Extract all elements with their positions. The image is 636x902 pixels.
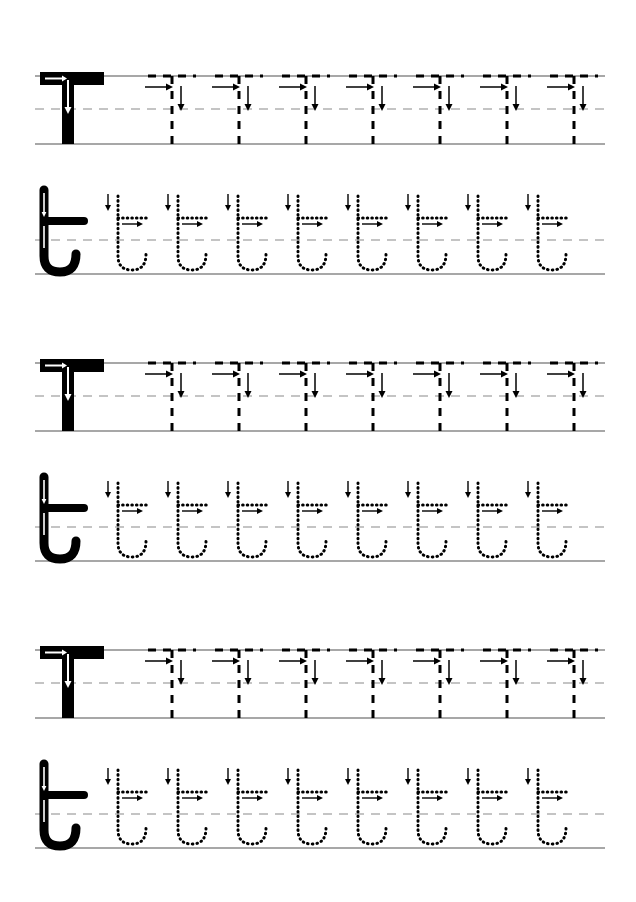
- uppercase-T-row-2: [0, 347, 636, 437]
- uppercase-T-row-1: [0, 60, 636, 150]
- tracing-letter-t: [345, 768, 390, 844]
- tracing-letter-T: [145, 76, 196, 144]
- tracing-letter-T: [279, 650, 330, 718]
- tracing-letter-t: [165, 194, 210, 270]
- tracing-letter-t: [105, 194, 150, 270]
- model-letter-lowercase-t: [42, 764, 84, 846]
- tracing-letter-T: [480, 76, 531, 144]
- tracing-letters-lowercase[interactable]: [105, 768, 570, 844]
- tracing-letter-t: [525, 768, 570, 844]
- tracing-letter-t: [405, 481, 450, 557]
- tracing-letter-T: [145, 363, 196, 431]
- tracing-letter-T: [480, 650, 531, 718]
- tracing-letter-t: [225, 481, 270, 557]
- tracing-letters-lowercase[interactable]: [105, 481, 570, 557]
- tracing-letter-t: [285, 194, 330, 270]
- model-letter-uppercase-T: [40, 359, 104, 431]
- tracing-letters-lowercase[interactable]: [105, 194, 570, 270]
- tracing-letter-t: [525, 481, 570, 557]
- tracing-letter-t: [405, 194, 450, 270]
- tracing-letter-t: [225, 194, 270, 270]
- tracing-letter-t: [105, 768, 150, 844]
- model-letter-lowercase-t: [42, 190, 84, 272]
- tracing-letter-t: [165, 481, 210, 557]
- tracing-letter-T: [547, 650, 598, 718]
- tracing-letter-T: [413, 76, 464, 144]
- tracing-letter-t: [525, 194, 570, 270]
- tracing-letter-t: [165, 768, 210, 844]
- tracing-letter-T: [346, 76, 397, 144]
- tracing-letters-uppercase[interactable]: [145, 76, 598, 144]
- tracing-letter-t: [405, 768, 450, 844]
- tracing-letter-T: [346, 363, 397, 431]
- lowercase-t-row-2: [0, 465, 636, 565]
- uppercase-T-row-3: [0, 634, 636, 724]
- tracing-letter-t: [225, 768, 270, 844]
- tracing-letter-T: [547, 76, 598, 144]
- model-letter-lowercase-t: [42, 477, 84, 559]
- tracing-letter-T: [212, 363, 263, 431]
- tracing-letter-T: [212, 76, 263, 144]
- tracing-letter-t: [345, 481, 390, 557]
- tracing-letter-T: [413, 363, 464, 431]
- tracing-letter-T: [413, 650, 464, 718]
- tracing-letter-T: [547, 363, 598, 431]
- tracing-letter-T: [480, 363, 531, 431]
- model-letter-uppercase-T: [40, 646, 104, 718]
- tracing-letter-t: [285, 768, 330, 844]
- lowercase-t-row-3: [0, 752, 636, 852]
- tracing-letter-T: [212, 650, 263, 718]
- model-letter-uppercase-T: [40, 72, 104, 144]
- tracing-letter-t: [465, 481, 510, 557]
- tracing-letter-T: [279, 76, 330, 144]
- tracing-letters-uppercase[interactable]: [145, 650, 598, 718]
- worksheet-page: [0, 0, 636, 902]
- tracing-letter-t: [345, 194, 390, 270]
- tracing-letter-t: [105, 481, 150, 557]
- lowercase-t-row-1: [0, 178, 636, 278]
- tracing-letter-T: [279, 363, 330, 431]
- tracing-letter-t: [465, 194, 510, 270]
- tracing-letter-T: [145, 650, 196, 718]
- tracing-letter-t: [465, 768, 510, 844]
- tracing-letter-t: [285, 481, 330, 557]
- tracing-letter-T: [346, 650, 397, 718]
- tracing-letters-uppercase[interactable]: [145, 363, 598, 431]
